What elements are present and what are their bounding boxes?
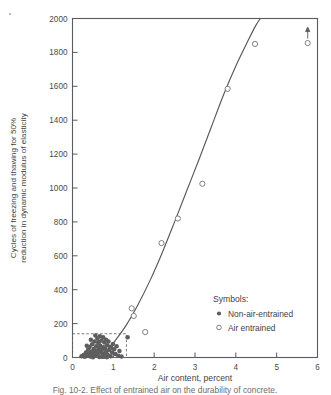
data-point-air-entrained — [252, 41, 257, 46]
y-tick-label: 600 — [54, 252, 68, 261]
x-tick-label: 4 — [234, 363, 239, 372]
chart-canvas: 0200400600800100012001400160018002000 01… — [0, 0, 331, 395]
data-point-non-air-entrained — [96, 340, 101, 345]
data-point-non-air-entrained — [93, 333, 98, 338]
y-tick-label: 1000 — [49, 184, 68, 193]
x-tick-label: 6 — [315, 363, 320, 372]
figure-container: 0200400600800100012001400160018002000 01… — [0, 0, 331, 395]
data-point-air-entrained — [159, 240, 164, 245]
data-point-air-entrained — [143, 329, 148, 334]
y-axis-title-line1: Cycles of freezing and thawing for 50% — [9, 118, 18, 258]
data-point-air-entrained — [225, 86, 230, 91]
legend-marker-open-circle-icon — [217, 325, 222, 330]
data-point-non-air-entrained — [125, 335, 130, 340]
data-point-non-air-entrained — [98, 334, 103, 339]
y-tick-label: 1400 — [49, 116, 68, 125]
data-point-non-air-entrained — [89, 337, 94, 342]
data-point-non-air-entrained — [106, 339, 111, 344]
y-tick-label: 0 — [63, 354, 68, 363]
data-point-air-entrained — [305, 40, 310, 45]
data-point-non-air-entrained — [91, 355, 96, 360]
x-tick-label: 5 — [274, 363, 279, 372]
figure-caption: Fig. 10-2. Effect of entrained air on th… — [53, 385, 278, 395]
y-tick-label: 800 — [54, 218, 68, 227]
data-point-non-air-entrained — [119, 354, 124, 359]
data-point-non-air-entrained — [114, 344, 119, 349]
scan-speck — [9, 13, 11, 15]
chart-background — [0, 0, 331, 395]
data-point-air-entrained — [131, 313, 136, 318]
y-tick-label: 400 — [54, 286, 68, 295]
data-point-non-air-entrained — [102, 354, 107, 359]
y-tick-label: 1200 — [49, 150, 68, 159]
data-point-non-air-entrained — [98, 348, 103, 353]
data-point-air-entrained — [129, 306, 134, 311]
data-point-air-entrained — [200, 181, 205, 186]
data-point-non-air-entrained — [117, 349, 122, 354]
legend-title: Symbols: — [213, 294, 248, 304]
legend-marker-filled-circle-icon — [217, 311, 221, 315]
legend-label-non-air-entrained: Non-air-entrained — [228, 309, 294, 319]
y-tick-label: 1800 — [49, 48, 68, 57]
x-tick-label: 2 — [152, 363, 157, 372]
y-axis-title: Cycles of freezing and thawing for 50% r… — [9, 112, 28, 262]
data-point-non-air-entrained — [85, 343, 90, 348]
y-axis-title-line2: reduction in dynamic modulus of elastici… — [19, 112, 28, 262]
x-tick-label: 3 — [193, 363, 198, 372]
y-tick-label: 200 — [54, 320, 68, 329]
data-point-air-entrained — [175, 216, 180, 221]
x-tick-label: 1 — [111, 363, 116, 372]
x-axis-title: Air content, percent — [158, 373, 233, 383]
y-tick-label: 1600 — [49, 82, 68, 91]
x-tick-label: 0 — [70, 363, 75, 372]
legend-label-air-entrained: Air entrained — [228, 323, 276, 333]
y-tick-label: 2000 — [49, 15, 68, 24]
